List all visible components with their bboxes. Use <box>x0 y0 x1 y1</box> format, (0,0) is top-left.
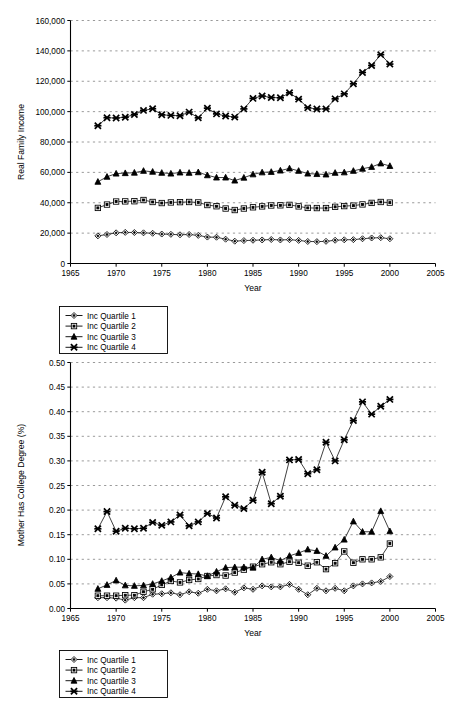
data-point-triangle <box>305 546 311 552</box>
data-point-x <box>341 437 348 443</box>
legend-item-label: Inc Quartile 1 <box>87 656 136 665</box>
x-tick-label: 2005 <box>426 269 445 278</box>
data-point-triangle <box>241 174 247 180</box>
data-point-center <box>133 200 135 202</box>
x-axis: 196519701975198019851990199520002005 <box>61 609 445 624</box>
data-point-center <box>124 231 126 233</box>
data-point-x <box>122 114 129 120</box>
data-point-x <box>359 69 366 75</box>
data-point-x <box>259 93 266 99</box>
data-point-center <box>261 239 263 241</box>
data-point-x <box>195 115 202 121</box>
data-point-x <box>195 519 202 525</box>
data-point-center <box>298 588 300 590</box>
legend-item-label: Inc Quartile 4 <box>87 687 136 696</box>
data-point-center <box>225 575 227 577</box>
series-4 <box>94 52 393 129</box>
panel-mother-college-degree: 0.000.050.100.150.200.250.300.350.400.45… <box>16 359 445 698</box>
data-point-x <box>186 523 193 529</box>
data-point-center <box>289 583 291 585</box>
data-point-center <box>143 199 145 201</box>
data-point-center <box>270 204 272 206</box>
data-point-center <box>143 591 145 593</box>
data-point-center <box>179 594 181 596</box>
panel-real-family-income: 020,00040,00060,00080,000100,000120,0001… <box>16 17 445 354</box>
data-point-center <box>115 201 117 203</box>
data-point-x <box>277 95 284 101</box>
y-tick-label: 120,000 <box>35 77 65 86</box>
data-point-x <box>341 91 348 97</box>
x-tick-label: 1975 <box>153 269 172 278</box>
data-point-center <box>161 233 163 235</box>
data-point-triangle <box>287 165 293 171</box>
data-point-triangle <box>95 586 101 592</box>
data-point-x <box>322 106 329 112</box>
x-tick-label: 1965 <box>61 614 80 623</box>
data-point-center <box>197 592 199 594</box>
data-point-center <box>279 586 281 588</box>
data-point-center <box>298 562 300 564</box>
data-point-x <box>377 52 384 58</box>
data-point-x <box>277 493 284 499</box>
x-tick-label: 1995 <box>335 269 354 278</box>
x-tick-label: 2000 <box>381 269 400 278</box>
data-point-x <box>113 528 120 534</box>
data-point-triangle <box>95 179 101 185</box>
data-point-x <box>386 396 393 402</box>
data-point-center <box>124 594 126 596</box>
data-point-center <box>298 240 300 242</box>
data-point-x <box>295 96 302 102</box>
data-point-triangle <box>195 169 201 175</box>
data-point-x <box>140 107 147 113</box>
data-point-center <box>73 325 75 327</box>
data-point-triangle <box>296 550 302 556</box>
data-point-x <box>313 106 320 112</box>
data-point-center <box>380 581 382 583</box>
data-point-center <box>325 240 327 242</box>
y-axis: 020,00040,00060,00080,000100,000120,0001… <box>35 17 70 269</box>
y-tick-label: 0.25 <box>49 482 65 491</box>
data-point-x <box>386 61 393 67</box>
data-point-center <box>261 205 263 207</box>
data-point-center <box>261 585 263 587</box>
data-point-x <box>131 526 138 532</box>
x-tick-label: 2000 <box>381 614 400 623</box>
y-tick-label: 160,000 <box>35 17 65 26</box>
data-point-center <box>143 597 145 599</box>
data-point-x <box>222 113 229 119</box>
series-group <box>94 52 393 245</box>
data-point-center <box>362 558 364 560</box>
y-tick-label: 0.35 <box>49 432 65 441</box>
data-point-center <box>225 238 227 240</box>
legend-item-label: Inc Quartile 3 <box>87 333 136 342</box>
data-point-x <box>286 90 293 96</box>
data-point-center <box>216 236 218 238</box>
data-point-center <box>261 563 263 565</box>
y-tick-label: 0.50 <box>49 359 65 368</box>
data-point-x <box>332 458 339 464</box>
data-point-center <box>188 591 190 593</box>
y-axis: 0.000.050.100.150.200.250.300.350.400.45… <box>49 359 70 614</box>
data-point-x <box>103 115 110 121</box>
data-point-center <box>124 200 126 202</box>
series-3 <box>95 508 393 591</box>
gridlines <box>71 363 436 584</box>
x-tick-label: 1985 <box>244 269 263 278</box>
data-point-center <box>298 205 300 207</box>
data-point-center <box>343 205 345 207</box>
data-point-center <box>170 233 172 235</box>
data-point-center <box>279 239 281 241</box>
data-point-center <box>334 587 336 589</box>
x-axis-title: Year <box>244 283 262 293</box>
data-point-center <box>316 587 318 589</box>
y-tick-label: 0.45 <box>49 383 65 392</box>
data-point-center <box>106 234 108 236</box>
data-point-center <box>371 582 373 584</box>
data-point-center <box>97 235 99 237</box>
data-point-center <box>352 239 354 241</box>
data-point-x <box>204 105 211 111</box>
data-point-center <box>206 588 208 590</box>
data-point-x <box>186 109 193 115</box>
data-point-x <box>158 112 165 118</box>
data-point-center <box>73 315 75 317</box>
